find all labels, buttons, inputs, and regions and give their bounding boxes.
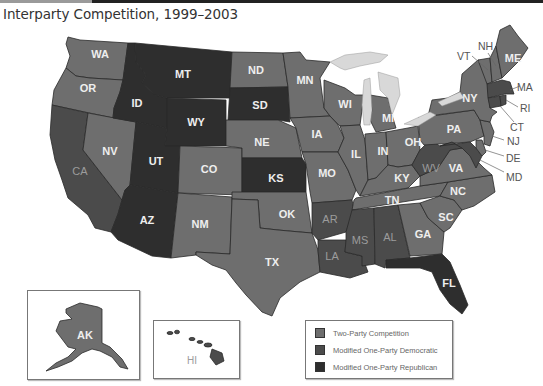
label-mn: MN bbox=[296, 74, 313, 86]
legend-swatch-republican bbox=[315, 362, 325, 372]
label-wv: WV bbox=[422, 162, 440, 174]
label-ut: UT bbox=[149, 155, 164, 167]
label-or: OR bbox=[80, 82, 97, 94]
lake-michigan bbox=[362, 78, 372, 125]
lake-superior bbox=[330, 52, 388, 70]
label-id: ID bbox=[132, 97, 143, 109]
legend-label: Two-Party Competition bbox=[333, 329, 409, 338]
label-wa: WA bbox=[91, 48, 109, 60]
legend: Two-Party Competition Modified One-Party… bbox=[305, 320, 453, 379]
label-ri: RI bbox=[520, 102, 531, 114]
label-ms: MS bbox=[352, 234, 369, 246]
label-ne: NE bbox=[254, 136, 269, 148]
label-vt: VT bbox=[457, 50, 471, 62]
label-va: VA bbox=[449, 162, 464, 174]
label-me: ME bbox=[505, 52, 522, 64]
legend-item-democratic: Modified One-Party Democratic bbox=[315, 344, 438, 356]
label-in: IN bbox=[378, 145, 389, 157]
label-pa: PA bbox=[447, 123, 462, 135]
alaska-map: AK bbox=[28, 291, 139, 379]
label-la: LA bbox=[325, 250, 339, 262]
label-tx: TX bbox=[265, 256, 280, 268]
label-al: AL bbox=[383, 231, 396, 243]
label-ga: GA bbox=[415, 228, 432, 240]
label-nc: NC bbox=[450, 185, 466, 197]
label-il: IL bbox=[351, 148, 361, 160]
hawaii-map: HI bbox=[154, 321, 239, 378]
label-mo: MO bbox=[318, 167, 336, 179]
label-ca: CA bbox=[72, 165, 88, 177]
label-sc: SC bbox=[438, 211, 453, 223]
label-nv: NV bbox=[102, 145, 118, 157]
leader-de bbox=[485, 150, 504, 156]
alaska-inset: AK bbox=[27, 290, 140, 380]
label-ky: KY bbox=[394, 172, 410, 184]
label-ma: MA bbox=[517, 81, 533, 93]
state-ma[interactable] bbox=[487, 80, 514, 98]
label-az: AZ bbox=[140, 214, 155, 226]
state-ri[interactable] bbox=[500, 95, 506, 106]
label-fl: FL bbox=[442, 277, 456, 289]
legend-label: Modified One-Party Republican bbox=[333, 363, 437, 372]
label-nh: NH bbox=[478, 40, 493, 52]
legend-label: Modified One-Party Democratic bbox=[333, 346, 438, 355]
label-ks: KS bbox=[268, 172, 283, 184]
label-ny: NY bbox=[462, 92, 478, 104]
leader-nj bbox=[492, 136, 504, 140]
label-nm: NM bbox=[191, 218, 208, 230]
label-ia: IA bbox=[312, 128, 323, 140]
label-hi: HI bbox=[187, 355, 197, 366]
label-sd: SD bbox=[252, 99, 267, 111]
label-mi: MI bbox=[382, 112, 394, 124]
label-md: MD bbox=[506, 171, 523, 183]
label-de: DE bbox=[506, 152, 521, 164]
label-ar: AR bbox=[322, 213, 337, 225]
state-ct[interactable] bbox=[488, 96, 501, 108]
label-oh: OH bbox=[405, 136, 422, 148]
label-wi: WI bbox=[338, 98, 351, 110]
label-ct: CT bbox=[510, 121, 525, 133]
hawaii-inset: HI bbox=[153, 320, 240, 379]
label-wy: WY bbox=[187, 116, 205, 128]
label-ok: OK bbox=[279, 208, 296, 220]
label-mt: MT bbox=[175, 68, 191, 80]
leader-ri bbox=[506, 100, 518, 107]
legend-item-republican: Modified One-Party Republican bbox=[315, 361, 437, 373]
label-ak: AK bbox=[77, 329, 93, 341]
label-nd: ND bbox=[248, 64, 264, 76]
leader-ct bbox=[500, 106, 514, 122]
legend-swatch-two-party bbox=[315, 328, 325, 338]
label-nj: NJ bbox=[507, 135, 520, 147]
legend-swatch-democratic bbox=[315, 345, 325, 355]
label-tn: TN bbox=[385, 194, 400, 206]
label-co: CO bbox=[201, 163, 218, 175]
legend-item-two-party: Two-Party Competition bbox=[315, 327, 409, 339]
